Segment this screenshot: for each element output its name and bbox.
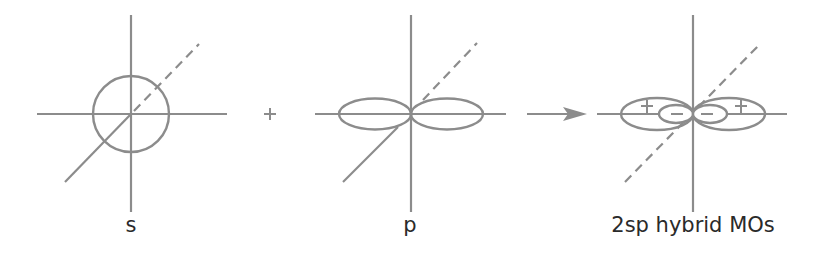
sp-hybrid-panel (597, 15, 787, 212)
s-orbital-label: s (126, 213, 137, 237)
plus-sign-right (735, 100, 747, 113)
y-axis-front (343, 127, 398, 182)
p-orbital-label: p (403, 213, 416, 237)
s-orbital-panel (37, 15, 227, 212)
plus-sign-left (641, 100, 653, 113)
p-orbital-panel (315, 15, 506, 212)
y-axis-back (423, 43, 477, 100)
hybrid-orbital-label: 2sp hybrid MOs (611, 213, 774, 237)
reaction-arrow (527, 107, 587, 121)
plus-operator (264, 108, 276, 120)
y-axis-front (65, 114, 131, 182)
